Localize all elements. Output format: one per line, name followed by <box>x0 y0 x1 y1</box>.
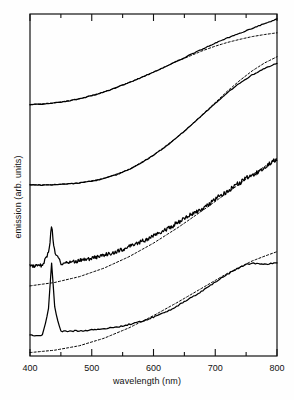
spectrum-curve <box>30 57 277 185</box>
x-tick-label: 700 <box>208 363 223 373</box>
x-tick-label: 600 <box>146 363 161 373</box>
spectrum-curve <box>30 19 277 105</box>
x-axis-title: wavelength (nm) <box>0 376 294 386</box>
spectrum-curve <box>30 252 277 353</box>
x-tick-label: 800 <box>269 363 284 373</box>
x-tick-labels: 400500600700800 <box>22 363 284 373</box>
y-axis-title: emission (arb. units) <box>13 127 23 267</box>
plot-frame <box>30 14 277 356</box>
spectrum-curve <box>30 33 277 105</box>
emission-spectra-figure: 400500600700800 wavelength (nm) emission… <box>0 0 294 400</box>
x-tick-label: 400 <box>22 363 37 373</box>
spectrum-curve <box>30 159 277 268</box>
x-tick-label: 500 <box>84 363 99 373</box>
spectrum-curve <box>30 263 277 336</box>
spectra-curves <box>30 19 277 353</box>
axis-ticks <box>30 14 277 356</box>
plot-canvas: 400500600700800 <box>0 0 294 400</box>
spectrum-curve <box>30 63 277 185</box>
